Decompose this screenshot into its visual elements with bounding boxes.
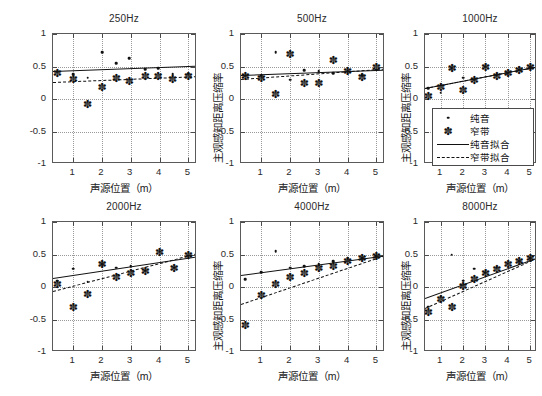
gridline-vertical [319,34,320,162]
x-tick-label: 3 [308,166,328,177]
data-point-tone [274,250,277,253]
y-tick [241,34,245,35]
data-point-narrowband: ✽ [141,266,150,275]
y-tick-right [191,222,195,223]
x-axis-label: 声源位置（m） [52,180,196,195]
data-point-tone [451,253,454,256]
x-tick-label: 2 [91,166,111,177]
data-point-narrowband: ✽ [470,275,479,284]
y-tick-label: 0.5 [392,60,418,71]
x-tick-top [319,222,320,226]
y-tick [425,67,429,68]
x-tick-label: 1 [62,354,82,365]
y-tick-label: 0 [208,280,234,291]
x-tick-label: 3 [120,354,140,365]
data-point-tone [86,76,89,79]
x-tick-top [102,34,103,38]
x-tick [485,346,486,350]
y-tick-right [531,34,535,35]
data-point-narrowband: ✽ [343,67,352,76]
x-tick-top [485,34,486,38]
legend-item: ✽窄带 [436,124,529,137]
dashed-line-icon [437,157,469,158]
gridline-horizontal [425,287,535,288]
asterisk-marker-icon: ✽ [443,125,452,136]
data-point-tone [332,72,335,75]
x-tick [348,158,349,162]
x-tick [131,346,132,350]
data-point-tone [260,271,263,274]
data-point-narrowband: ✽ [154,71,163,80]
x-tick-top [290,34,291,38]
data-point-narrowband: ✽ [83,99,92,108]
x-tick [376,158,377,162]
x-axis-label: 声源位置（m） [424,368,536,383]
x-tick [102,158,103,162]
subplot-title: 2000Hz [52,201,196,212]
y-tick [241,67,245,68]
y-tick-right [191,34,195,35]
x-tick-label: 2 [452,166,472,177]
y-tick-label: -1 [20,157,46,168]
y-tick [53,99,57,100]
data-point-tone [115,266,118,269]
y-tick-right [191,320,195,321]
y-tick [241,132,245,133]
gridline-vertical [131,34,132,162]
x-tick [188,158,189,162]
x-tick-top [441,222,442,226]
gridline-horizontal [241,67,383,68]
plot-area: ✽✽✽✽✽✽✽✽✽✽ [52,33,196,163]
subplot-4000hz: 4000Hz✽✽✽✽✽✽✽✽✽✽12345-1-0.500.51声源位置（m）主… [196,201,388,387]
legend-symbol: ✽ [436,124,470,137]
x-tick-label: 5 [519,354,539,365]
legend-label: 窄带拟合 [470,150,510,164]
legend-symbol [436,137,470,150]
subplot-2000hz: 2000Hz✽✽✽✽✽✽✽✽✽✽12345-1-0.500.51声源位置（m）主… [8,201,200,387]
y-tick-label: 0.5 [208,248,234,259]
gridline-vertical [319,222,320,350]
legend-label: 纯音 [470,111,490,125]
y-tick [425,287,429,288]
gridline-vertical [508,222,509,350]
data-point-narrowband: ✽ [492,264,501,273]
data-point-narrowband: ✽ [126,268,135,277]
x-tick-top [463,34,464,38]
y-tick-right [531,320,535,321]
data-point-tone [115,62,118,65]
x-tick-label: 3 [308,354,328,365]
y-tick [241,222,245,223]
x-tick [290,346,291,350]
y-tick-label: 1 [392,215,418,226]
x-tick [188,346,189,350]
x-tick-top [348,222,349,226]
x-tick-label: 4 [337,166,357,177]
y-tick [53,34,57,35]
gridline-vertical [261,34,262,162]
y-tick-label: 1 [392,27,418,38]
x-tick [102,346,103,350]
x-axis-label: 声源位置（m） [52,368,196,383]
x-tick [319,158,320,162]
y-tick-label: 0.5 [392,248,418,259]
x-tick [441,346,442,350]
y-tick-label: 0 [392,280,418,291]
gridline-horizontal [425,99,535,100]
data-point-narrowband: ✽ [343,257,352,266]
y-tick [53,255,57,256]
y-tick [53,320,57,321]
data-point-narrowband: ✽ [241,71,250,80]
x-tick-top [376,222,377,226]
data-point-narrowband: ✽ [314,78,323,87]
data-point-narrowband: ✽ [141,71,150,80]
data-point-narrowband: ✽ [459,281,468,290]
x-tick-label: 4 [149,166,169,177]
x-tick-top [508,222,509,226]
solid-line-icon [437,144,469,145]
legend-label: 窄带 [470,124,490,138]
data-point-narrowband: ✽ [447,64,456,73]
gridline-horizontal [425,320,535,321]
x-tick-top [441,34,442,38]
subplot-1000hz: 1000Hz✽✽✽✽✽✽✽✽✽✽12345-1-0.500.51声源位置（m）主… [380,13,540,199]
x-tick-label: 1 [62,166,82,177]
